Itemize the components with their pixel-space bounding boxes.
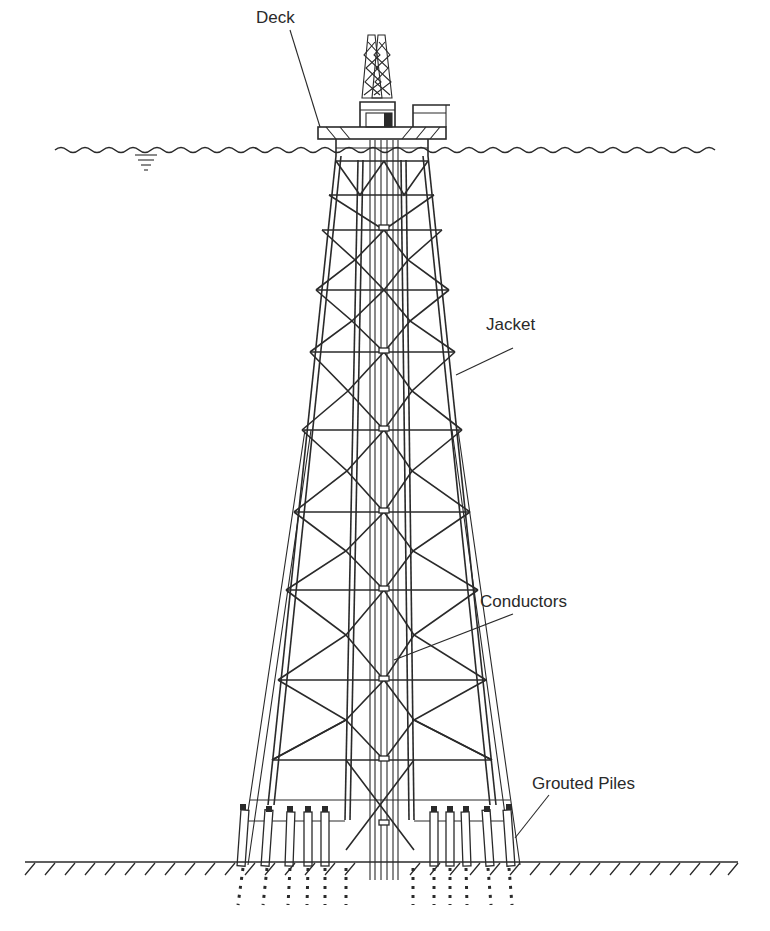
- jacket-label: Jacket: [486, 315, 535, 335]
- jacket-leader-line: [456, 348, 513, 375]
- jacket-platform-diagram: Deck Jacket Conductors Grouted Piles: [0, 0, 770, 931]
- derrick: [362, 35, 392, 98]
- grouted-piles-label: Grouted Piles: [532, 774, 635, 794]
- water-level-icon: [135, 155, 157, 170]
- grouted-piles: [237, 804, 515, 866]
- grouted-piles-leader-line: [515, 795, 549, 838]
- deck-label: Deck: [256, 8, 295, 28]
- conductors: [370, 140, 398, 880]
- diagram-canvas: [0, 0, 770, 931]
- conductors-label: Conductors: [480, 592, 567, 612]
- deck-leader-line: [290, 30, 320, 127]
- deck: [318, 102, 450, 156]
- horizontal-frames: [250, 161, 510, 800]
